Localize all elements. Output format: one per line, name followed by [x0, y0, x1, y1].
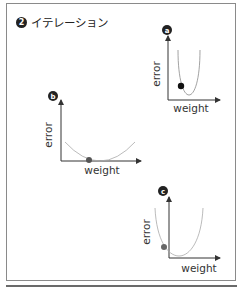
- panel-c-y-label: error: [140, 219, 152, 245]
- panel-c-point: [161, 244, 167, 250]
- iteration-diagram: a error weight b error weight c error we…: [0, 0, 243, 288]
- panel-b-point: [86, 157, 92, 163]
- panel-b-y-label: error: [42, 122, 54, 148]
- panel-a-point: [178, 83, 184, 89]
- panel-c-x-label: weight: [181, 262, 216, 274]
- panel-c: c error weight: [140, 186, 220, 274]
- panel-b-curve: [65, 142, 135, 161]
- panel-a-x-label: weight: [173, 102, 208, 114]
- panel-b: b error weight: [42, 91, 141, 176]
- panel-a: a error weight: [150, 25, 220, 114]
- badge-b-label: b: [50, 93, 55, 101]
- panel-b-x-label: weight: [84, 164, 119, 176]
- panel-a-y-label: error: [150, 61, 162, 87]
- badge-a-label: a: [165, 27, 170, 35]
- badge-c-label: c: [161, 188, 165, 196]
